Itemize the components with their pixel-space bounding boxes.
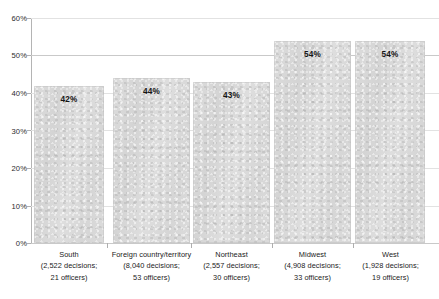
bar-west[interactable]: 54% [355, 41, 425, 244]
x-label-south: South (2,522 decisions; 21 officers) [25, 249, 113, 283]
bar-value-midwest: 54% [274, 50, 351, 59]
x-label-midwest-officers: 33 officers) [268, 272, 357, 283]
y-tick-40: 40% [3, 89, 27, 98]
y-tick-10: 10% [3, 202, 27, 211]
x-axis-tick-1 [107, 243, 108, 248]
x-axis-tick-3 [272, 243, 273, 248]
bar-value-northeast: 43% [193, 91, 270, 100]
x-label-west: West (1,928 decisions; 19 officers) [346, 249, 435, 283]
x-label-south-name: South [25, 249, 113, 260]
y-tick-60: 60% [3, 14, 27, 23]
x-label-west-officers: 19 officers) [346, 272, 435, 283]
x-label-midwest-decisions: (4,908 decisions; [268, 260, 357, 271]
y-tick-30: 30% [3, 127, 27, 136]
x-label-west-name: West [346, 249, 435, 260]
x-label-foreign-country-territory-officers: 53 officers) [107, 272, 196, 283]
gridline-60 [31, 18, 439, 19]
x-label-foreign-country-territory-decisions: (8,040 decisions; [107, 260, 196, 271]
x-label-northeast-decisions: (2,557 decisions; [187, 260, 276, 271]
x-label-northeast: Northeast (2,557 decisions; 30 officers) [187, 249, 276, 283]
x-label-foreign-country-territory-name: Foreign country/territory [107, 249, 196, 260]
bar-midwest[interactable]: 54% [274, 41, 351, 244]
y-tick-0: 0% [3, 239, 27, 248]
plot-area: 42% 44% 43% 54% 54% [31, 18, 439, 243]
x-label-midwest: Midwest (4,908 decisions; 33 officers) [268, 249, 357, 283]
x-axis-tick-2 [191, 243, 192, 248]
bar-foreign-country-territory[interactable]: 44% [113, 78, 190, 243]
x-label-south-decisions: (2,522 decisions; [25, 260, 113, 271]
gridline-0 [31, 243, 439, 244]
x-label-northeast-name: Northeast [187, 249, 276, 260]
bar-value-west: 54% [355, 50, 425, 59]
bar-northeast[interactable]: 43% [193, 82, 270, 243]
x-label-midwest-name: Midwest [268, 249, 357, 260]
bar-value-foreign-country-territory: 44% [113, 87, 190, 96]
y-tick-20: 20% [3, 164, 27, 173]
y-axis-labels: 60% 50% 40% 30% 20% 10% 0% [0, 0, 27, 299]
x-axis-tick-4 [353, 243, 354, 248]
bar-value-south: 42% [34, 95, 104, 104]
x-label-west-decisions: (1,928 decisions; [346, 260, 435, 271]
x-label-south-officers: 21 officers) [25, 272, 113, 283]
x-axis-labels: South (2,522 decisions; 21 officers) For… [31, 249, 439, 299]
y-tick-50: 50% [3, 51, 27, 60]
bar-south[interactable]: 42% [34, 86, 104, 244]
x-label-foreign-country-territory: Foreign country/territory (8,040 decisio… [107, 249, 196, 283]
x-label-northeast-officers: 30 officers) [187, 272, 276, 283]
bar-chart: 60% 50% 40% 30% 20% 10% 0% 42% 44% 43% [0, 0, 439, 299]
